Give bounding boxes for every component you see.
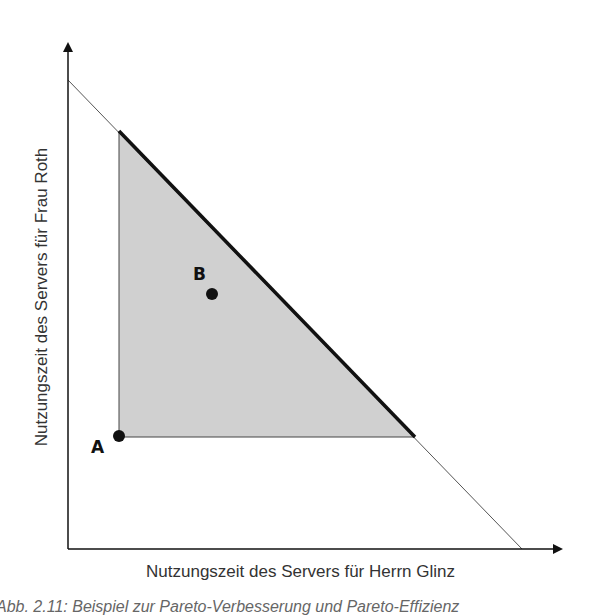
point-a: [113, 430, 125, 442]
point-a-label: A: [91, 437, 104, 457]
point-b-label: B: [193, 264, 206, 284]
x-axis-label: Nutzungszeit des Servers für Herrn Glinz: [0, 562, 601, 582]
y-axis-label: Nutzungszeit des Servers für Frau Roth: [32, 148, 52, 447]
figure-caption: Abb. 2.11: Beispiel zur Pareto-Verbesser…: [0, 598, 459, 616]
point-b: [206, 288, 218, 300]
